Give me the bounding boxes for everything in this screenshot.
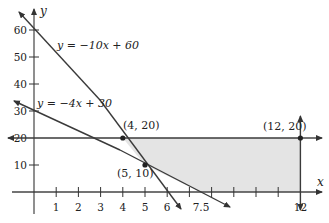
x-tick-label-3: 3: [97, 201, 104, 213]
point-label-12-20: (12, 20): [263, 120, 307, 133]
y-tick-label-60: 60: [14, 24, 27, 36]
point-label-4-20: (4, 20): [123, 119, 160, 132]
x-axis-label: x: [317, 175, 324, 189]
x-tick-label-2: 2: [75, 201, 82, 213]
y-tick-label-10: 10: [14, 159, 27, 171]
line-y-minus10x-plus60: [19, 12, 100, 100]
point-4-20: [120, 135, 125, 140]
linear-programming-graph: 1 2 3 4 5 6 7.5 12 10 20 30 40 50 60 y x…: [0, 0, 329, 223]
x-tick-label-6: 6: [164, 201, 171, 213]
equation-label-1: y = −10x + 60: [56, 39, 139, 52]
x-tick-label-5: 5: [142, 201, 149, 213]
equation-label-2: y = −4x + 30: [36, 97, 112, 110]
y-tick-label-40: 40: [14, 78, 27, 90]
y-tick-label-50: 50: [14, 51, 27, 63]
y-axis-label: y: [39, 4, 47, 18]
x-tick-label-4: 4: [119, 201, 126, 213]
x-tick-label-7-5: 7.5: [193, 201, 210, 213]
x-tick-label-1: 1: [53, 201, 60, 213]
point-12-20: [298, 135, 303, 140]
point-label-5-10: (5, 10): [117, 167, 154, 180]
